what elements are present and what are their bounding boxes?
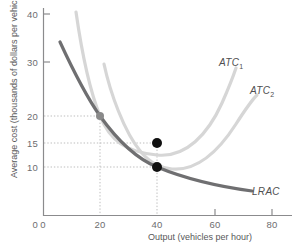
curve-label-atc1-subscript: 1 — [239, 63, 243, 70]
x-tick-label-40: 40 — [146, 219, 168, 230]
x-axis-title: Output (vehicles per hour) — [148, 232, 252, 242]
curve-label-atc2-text: ATC — [250, 85, 270, 96]
cost-curves-chart: 40 30 20 15 10 0 0 20 40 60 80 Average c… — [0, 0, 298, 249]
point-atc1-at-output-40 — [152, 138, 162, 148]
x-tick-label-80: 80 — [261, 219, 283, 230]
y-tick-label-10: 10 — [16, 162, 38, 173]
y-tick-label-15: 15 — [16, 138, 38, 149]
y-tick-label-30: 30 — [16, 57, 38, 68]
curve-label-atc2: ATC2 — [250, 85, 274, 98]
point-lrac-atc2-at-output-40 — [152, 162, 162, 172]
y-tick-label-40: 40 — [16, 9, 38, 20]
x-tick-label-60: 60 — [204, 219, 226, 230]
curve-label-atc1: ATC1 — [219, 57, 243, 70]
point-tangency-atc1-lrac — [96, 112, 104, 120]
curve-label-lrac: LRAC — [252, 186, 280, 197]
y-axis-title: Average cost (thousands of dollars per v… — [9, 28, 19, 178]
y-tick-label-20: 20 — [16, 111, 38, 122]
curve-label-atc1-text: ATC — [219, 57, 239, 68]
atc2-curve — [104, 64, 257, 169]
plot-area — [0, 0, 298, 249]
x-tick-label-0: 0 — [32, 219, 54, 230]
curve-label-atc2-subscript: 2 — [270, 91, 274, 98]
x-tick-label-20: 20 — [89, 219, 111, 230]
